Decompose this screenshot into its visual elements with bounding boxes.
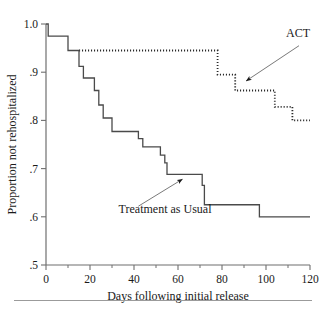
x-tick-label: 100: [257, 273, 275, 285]
x-tick-label: 60: [172, 273, 184, 285]
y-axis-label: Proportion not rehospitalized: [5, 75, 19, 215]
x-tick-label: 40: [128, 273, 140, 285]
y-tick-label: .5: [29, 259, 38, 271]
chart-figure: .5.6.7.8.91.0020406080100120Days followi…: [0, 0, 326, 309]
y-tick-label: 1.0: [24, 18, 39, 30]
x-tick-label: 80: [216, 273, 228, 285]
treatment-as-usual-annotation-label: Treatment as Usual: [119, 202, 213, 216]
x-tick-label: 20: [84, 273, 96, 285]
act-annotation-label: ACT: [286, 26, 311, 40]
series-treatment-as-usual: [46, 24, 310, 217]
y-tick-label: .9: [29, 66, 38, 78]
survival-curve-plot: .5.6.7.8.91.0020406080100120Days followi…: [0, 0, 326, 309]
x-tick-label: 120: [301, 273, 319, 285]
act-annotation-arrow: [246, 46, 299, 81]
y-tick-label: .6: [29, 211, 38, 223]
footer-rule: [14, 300, 312, 301]
x-tick-label: 0: [43, 273, 49, 285]
y-tick-label: .7: [29, 163, 38, 175]
y-tick-label: .8: [29, 114, 38, 126]
